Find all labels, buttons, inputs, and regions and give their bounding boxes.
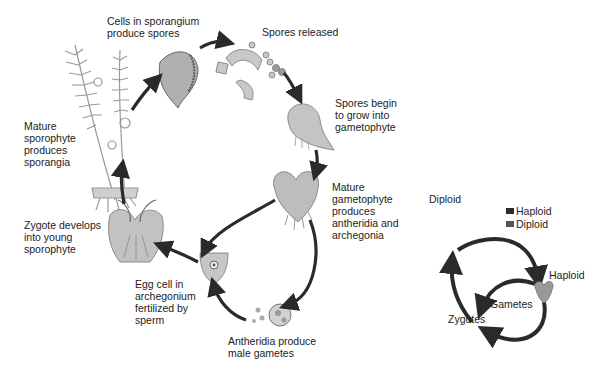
antheridium-icon bbox=[252, 304, 291, 326]
label-antheridia: Antheridia produce male gametes bbox=[228, 335, 316, 359]
legend-swatch-haploid bbox=[506, 208, 514, 214]
inset-gametes-label: Gametes bbox=[490, 298, 533, 310]
inset-zygotes-label: Zygotes bbox=[448, 313, 485, 325]
legend-haploid-label: Haploid bbox=[516, 205, 552, 217]
spores-released-icon bbox=[216, 42, 286, 100]
label-mature-sporophyte: Mature sporophyte produces sporangia bbox=[24, 120, 76, 168]
label-mature-gametophyte: Mature gametophyte produces antheridia a… bbox=[332, 181, 399, 241]
young-gametophyte-icon bbox=[288, 104, 334, 150]
label-spores-released: Spores released bbox=[262, 26, 338, 38]
life-cycle-illustration bbox=[0, 0, 604, 370]
young-sporophyte-icon bbox=[108, 200, 163, 262]
inset-gametophyte-icon bbox=[535, 281, 553, 303]
inset-haploid-label: Haploid bbox=[549, 269, 585, 281]
archegonium-egg-icon bbox=[200, 253, 228, 283]
label-zygote: Zygote develops into young sporophyte bbox=[24, 219, 101, 255]
label-sporangium: Cells in sporangium produce spores bbox=[107, 15, 199, 39]
label-spores-grow: Spores begin to grow into gametophyte bbox=[335, 97, 397, 133]
sporangium-icon bbox=[159, 52, 198, 108]
inset-diploid-label: Diploid bbox=[429, 193, 461, 205]
legend-diploid-label: Diploid bbox=[516, 218, 548, 230]
label-egg-fertilized: Egg cell in archegonium fertilized by sp… bbox=[135, 278, 196, 326]
legend-swatch-diploid bbox=[506, 221, 514, 227]
